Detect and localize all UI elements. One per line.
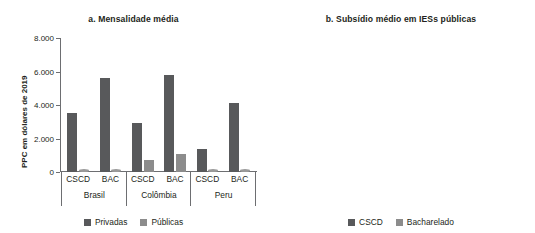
panel-a-mensalidade-media: a. Mensalidade média PPC em dólares de 2… <box>0 0 267 233</box>
panel-a-subcategory-label: BAC <box>231 174 248 184</box>
panel-a-subcategory-label: CSCD <box>66 174 90 184</box>
panel-a-subcategory-label: BAC <box>166 174 183 184</box>
panel-a-legend-label: Privadas <box>95 217 128 227</box>
panel-a-bar <box>240 169 250 172</box>
panel-a-group-label: Peru <box>215 190 233 200</box>
panel-a-tick-label: 2.000 <box>34 134 54 143</box>
panel-a-bar <box>229 103 239 173</box>
panel-a-legend-item: Públicas <box>140 217 183 227</box>
panel-b-legend-label: CSCD <box>359 217 383 227</box>
panel-a-bar <box>132 123 142 172</box>
panel-a-bars <box>60 38 257 172</box>
panel-a-bar <box>176 154 186 172</box>
panel-a-group-separator <box>126 172 127 206</box>
panel-a-tick-label: 4.000 <box>34 101 54 110</box>
panel-b-legend: CSCDBacharelado <box>267 217 535 227</box>
panel-a-bar <box>144 160 154 172</box>
panel-a-subcategory-label: CSCD <box>131 174 155 184</box>
panel-a-group-separator <box>255 172 256 206</box>
panel-a-group-separator <box>190 172 191 206</box>
panel-b-legend-item: Bacharelado <box>396 217 454 227</box>
panel-a-bar <box>208 169 218 172</box>
panel-a-bar <box>111 169 121 172</box>
figure-root: a. Mensalidade média PPC em dólares de 2… <box>0 0 535 233</box>
panel-a-group-separator <box>61 172 62 206</box>
panel-a-title: a. Mensalidade média <box>0 14 267 24</box>
panel-b-title: b. Subsídio médio em IESs públicas <box>267 14 535 24</box>
panel-a-bar <box>100 78 110 172</box>
panel-a-bar <box>67 113 77 172</box>
panel-a-bar <box>164 75 174 172</box>
panel-a-plot-area: 02.0004.0006.0008.000 <box>60 38 257 172</box>
panel-a-legend-item: Privadas <box>84 217 128 227</box>
panel-a-bar <box>79 169 89 172</box>
panel-a-y-axis-label: PPC em dólares de 2019 <box>20 76 29 169</box>
panel-b-legend-swatch-icon <box>348 219 355 226</box>
panel-a-group-label: Colômbia <box>141 190 176 200</box>
panel-a-subcategory-label: BAC <box>102 174 119 184</box>
panel-a-bar <box>197 149 207 172</box>
panel-b-subsidio-medio: b. Subsídio médio em IESs públicas PPC e… <box>267 0 535 233</box>
panel-a-legend-swatch-icon <box>84 219 91 226</box>
panel-a-tick-label: 0 <box>50 168 54 177</box>
panel-a-legend: PrivadasPúblicas <box>0 217 267 227</box>
panel-a-tick-label: 6.000 <box>34 67 54 76</box>
panel-a-tick-mark <box>56 172 60 173</box>
panel-a-legend-label: Públicas <box>151 217 183 227</box>
panel-a-legend-swatch-icon <box>140 219 147 226</box>
panel-b-legend-swatch-icon <box>396 219 403 226</box>
panel-b-legend-label: Bacharelado <box>407 217 454 227</box>
panel-a-subcategory-label: CSCD <box>195 174 219 184</box>
panel-a-tick-label: 8.000 <box>34 34 54 43</box>
panel-b-legend-item: CSCD <box>348 217 383 227</box>
panel-a-group-label: Brasil <box>84 190 105 200</box>
